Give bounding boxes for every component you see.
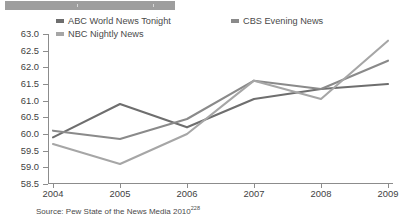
y-axis-label: 61.0	[7, 96, 39, 105]
legend-label-abc: ABC World News Tonight	[68, 16, 171, 26]
chart-plot-area	[48, 34, 393, 184]
x-axis-label: 2009	[366, 188, 409, 199]
legend-item-abc: ABC World News Tonight	[56, 16, 171, 27]
y-tick	[43, 184, 48, 185]
x-axis-label: 2006	[165, 188, 209, 199]
x-axis-label: 2005	[98, 188, 142, 199]
y-axis-label: 58.5	[7, 179, 39, 188]
source-note: Source: Pew State of the News Media 2010…	[36, 205, 200, 216]
topbar-divider	[77, 4, 78, 7]
y-axis-label: 61.5	[7, 79, 39, 88]
y-axis-label: 60.0	[7, 129, 39, 138]
x-axis-label: 2007	[232, 188, 276, 199]
x-axis-label: 2008	[299, 188, 343, 199]
y-axis-label: 62.0	[7, 62, 39, 71]
series-line	[53, 61, 388, 139]
legend-swatch-cbs	[231, 19, 239, 23]
legend-label-cbs: CBS Evening News	[243, 16, 323, 26]
source-superscript: 228	[191, 205, 200, 211]
y-axis-label: 59.5	[7, 146, 39, 155]
source-text: Source: Pew State of the News Media 2010	[36, 207, 191, 216]
y-axis-label: 62.5	[7, 46, 39, 55]
chart-series-lines	[48, 34, 393, 184]
legend-item-cbs: CBS Evening News	[231, 16, 323, 27]
y-axis-label: 63.0	[7, 29, 39, 38]
y-axis-label: 59.0	[7, 162, 39, 171]
series-line	[53, 84, 388, 137]
y-axis-label: 60.5	[7, 112, 39, 121]
x-axis-label: 2004	[31, 188, 75, 199]
series-line	[53, 41, 388, 164]
topbar-divider	[153, 4, 154, 7]
legend-swatch-abc	[56, 19, 64, 23]
top-decoration-bar	[5, 1, 175, 10]
